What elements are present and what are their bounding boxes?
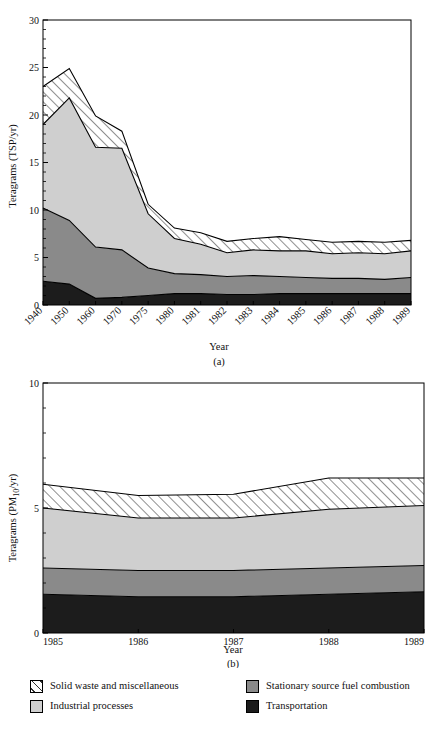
x-tick-label: 1981 <box>180 305 203 328</box>
x-tick-label: 1950 <box>48 305 71 328</box>
chart-b-svg: 051019851986198719881989 Year Teragrams … <box>0 368 437 668</box>
x-tick-label: 1982 <box>206 305 229 328</box>
chart-b-y-axis-title: Teragrams (PM10/yr) <box>7 473 21 562</box>
x-tick-label: 1989 <box>404 636 424 647</box>
x-tick-label: 1980 <box>153 305 176 328</box>
y-tick-label: 5 <box>34 252 39 263</box>
chart-b-y-axis-title-base: Teragrams (PM <box>7 496 19 562</box>
legend-item-stationary: Stationary source fuel combustion <box>246 676 410 696</box>
x-tick-label: 1989 <box>390 305 413 328</box>
legend-label-stationary: Stationary source fuel combustion <box>266 681 410 692</box>
chart-b-y-axis-title-tail: /yr) <box>7 473 19 489</box>
chart-legend: Solid waste and miscellaneous Industrial… <box>0 676 437 734</box>
x-tick-label: 1970 <box>101 305 124 328</box>
y-tick-label: 15 <box>29 157 39 168</box>
legend-swatch-stationary <box>246 680 259 693</box>
legend-swatch-industrial <box>30 700 43 713</box>
x-tick-label: 1960 <box>74 305 97 328</box>
y-tick-label: 30 <box>29 15 39 26</box>
chart-panel-b: 051019851986198719881989 Year Teragrams … <box>0 368 437 668</box>
chart-panel-a: 0510152025301940195019601970197519801981… <box>0 0 437 368</box>
y-tick-label: 25 <box>29 62 39 73</box>
chart-b-x-axis-title: Year <box>223 644 243 655</box>
legend-swatch-solid-waste <box>30 680 43 693</box>
chart-a-svg: 0510152025301940195019601970197519801981… <box>0 0 437 368</box>
y-tick-label: 5 <box>34 503 39 514</box>
legend-label-industrial: Industrial processes <box>50 701 133 712</box>
chart-b-y-axis-title-sub: 10 <box>12 489 21 497</box>
legend-item-transportation: Transportation <box>246 696 410 716</box>
y-tick-label: 0 <box>34 628 39 639</box>
x-tick-label: 1985 <box>43 636 63 647</box>
area-transport <box>43 592 424 633</box>
x-tick-label: 1988 <box>364 305 387 328</box>
y-tick-label: 10 <box>29 378 39 389</box>
x-tick-label: 1988 <box>319 636 339 647</box>
x-tick-label: 1987 <box>337 305 360 328</box>
figure-container: 0510152025301940195019601970197519801981… <box>0 0 437 734</box>
legend-column-right: Stationary source fuel combustion Transp… <box>246 676 410 716</box>
legend-label-transportation: Transportation <box>266 701 327 712</box>
x-tick-label: 1984 <box>258 304 281 327</box>
chart-a-y-axis-title: Teragrams (TSP/yr) <box>7 124 19 208</box>
x-tick-label: 1986 <box>128 636 148 647</box>
x-tick-label: 1986 <box>311 305 334 328</box>
chart-a-areas <box>43 68 411 305</box>
chart-b-areas <box>43 478 424 633</box>
panel-b-tag: (b) <box>227 658 240 668</box>
chart-a-x-axis-title: Year <box>209 341 229 352</box>
legend-item-solid-waste: Solid waste and miscellaneous <box>30 676 179 696</box>
legend-item-industrial: Industrial processes <box>30 696 179 716</box>
legend-column-left: Solid waste and miscellaneous Industrial… <box>30 676 179 716</box>
panel-a-tag: (a) <box>213 356 225 368</box>
legend-label-solid-waste: Solid waste and miscellaneous <box>50 681 179 692</box>
x-tick-label: 1975 <box>127 305 150 328</box>
y-tick-label: 20 <box>29 110 39 121</box>
x-tick-label: 1940 <box>22 305 45 328</box>
y-tick-label: 10 <box>29 205 39 216</box>
x-tick-label: 1985 <box>285 305 308 328</box>
legend-swatch-transportation <box>246 700 259 713</box>
x-tick-label: 1983 <box>232 305 255 328</box>
